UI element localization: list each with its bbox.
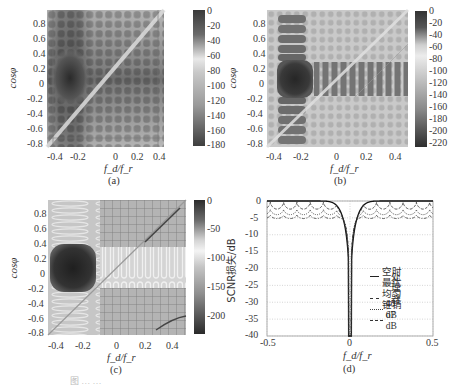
panel-label-c: (c) (110, 364, 122, 375)
legend-swatch-dotted (370, 309, 383, 310)
y-tick-neg08-a: -0.8 (27, 139, 43, 149)
colorbar-c (194, 200, 205, 334)
panel-label-d: (d) (343, 363, 355, 374)
y-axis-label-d: SCNR损失/dB (223, 238, 238, 302)
legend-swatch-dashed (370, 298, 379, 299)
panel-label-b: (b) (334, 175, 346, 186)
y-axis-label-a: cosφ (6, 68, 18, 89)
legend-d: 空时最优 处理器 均匀锥销 40 dB 67 dB (370, 271, 402, 326)
legend-swatch-dashdot (370, 320, 383, 321)
panel-label-a: (a) (108, 175, 120, 186)
line-chart-d (267, 201, 433, 336)
heatmap-b (267, 10, 408, 147)
heatmap-a (47, 10, 164, 147)
x-axis-label-b: f_d/f_r (330, 163, 359, 174)
legend-swatch-solid (370, 276, 379, 277)
figure-caption: 图 … … (70, 374, 102, 387)
heatmap-c (48, 200, 186, 335)
colorbar-a (193, 10, 205, 146)
y-axis-label-c: cosφ (7, 258, 19, 279)
colorbar-b (415, 11, 427, 147)
y-axis-label-b: cosφ (226, 68, 238, 89)
x-axis-label-a: f_d/f_r (104, 163, 133, 174)
legend-item-67db: 67 dB (370, 315, 402, 326)
x-axis-label-c: f_d/f_r (107, 352, 136, 363)
x-axis-label-d: f_d/f_r (343, 350, 372, 361)
